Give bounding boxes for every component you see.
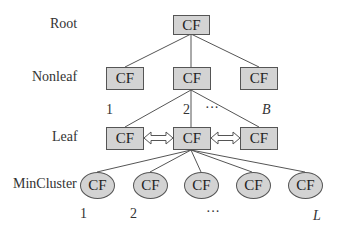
nonleaf-node: CF [240, 67, 278, 90]
mincluster-node: CF [133, 172, 168, 199]
nonleaf-index: ··· [205, 100, 219, 116]
level-label-root: Root [50, 16, 77, 32]
mincluster-node: CF [184, 172, 219, 199]
mincluster-index: ··· [206, 204, 220, 220]
level-label-nonleaf: Nonleaf [32, 69, 77, 85]
level-label-mincluster: MinCluster [13, 176, 77, 192]
leaf-node: CF [106, 127, 144, 150]
root-node: CF [173, 15, 210, 35]
nonleaf-index: B [262, 102, 271, 118]
mincluster-index: L [313, 208, 321, 224]
leaf-node: CF [240, 127, 278, 150]
nonleaf-index: 2 [183, 102, 190, 118]
mincluster-node: CF [80, 172, 115, 199]
nonleaf-node: CF [173, 67, 211, 90]
mincluster-node: CF [288, 172, 323, 199]
mincluster-index: 2 [130, 206, 137, 222]
mincluster-node: CF [236, 172, 271, 199]
tree-edges [0, 0, 340, 232]
mincluster-index: 1 [80, 206, 87, 222]
leaf-node: CF [173, 127, 211, 150]
level-label-leaf: Leaf [52, 129, 78, 145]
nonleaf-index: 1 [106, 102, 113, 118]
nonleaf-node: CF [106, 67, 144, 90]
